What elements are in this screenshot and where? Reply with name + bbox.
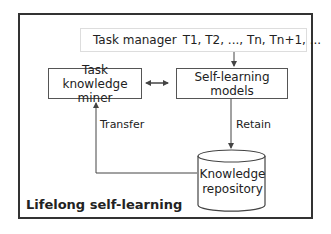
task-knowledge-miner-node: Task knowledge miner [48, 68, 142, 99]
miner-label: Task knowledge miner [49, 63, 141, 105]
repository-label-line1: Knowledge [199, 167, 266, 182]
repository-label-line2: repository [199, 182, 266, 197]
retain-label: Retain [236, 118, 271, 131]
knowledge-repository-node: Knowledge repository [199, 167, 266, 197]
self-learning-models-node: Self-learning models [176, 68, 288, 99]
models-label: Self-learning models [177, 70, 287, 98]
diagram-title: Lifelong self-learning [26, 197, 182, 212]
transfer-label: Transfer [100, 118, 144, 131]
